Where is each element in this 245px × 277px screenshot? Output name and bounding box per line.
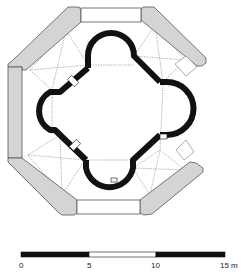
vault-lines <box>28 25 185 195</box>
floor-plan <box>0 0 245 277</box>
scale-tick-5: 5 <box>87 262 91 270</box>
inner-openings <box>67 75 167 182</box>
scale-tick-0: 0 <box>19 262 23 270</box>
inner-chamber-walls <box>39 33 193 187</box>
wall-bands <box>77 8 141 214</box>
scale-tick-10: 10 <box>151 262 160 270</box>
scale-bar <box>21 252 225 257</box>
scale-tick-15m: 15 m <box>220 262 238 270</box>
